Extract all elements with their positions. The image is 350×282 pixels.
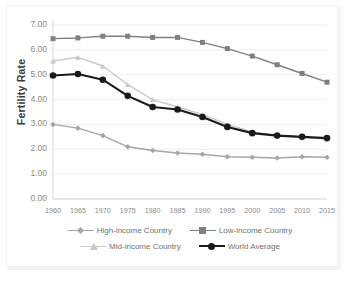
data-point-marker (174, 106, 181, 113)
data-point-marker (50, 72, 57, 79)
data-point-marker (150, 35, 155, 40)
legend-swatch-high-income-country (68, 226, 94, 235)
data-point-marker (324, 135, 331, 142)
legend-marker (90, 243, 98, 250)
data-point-marker (75, 125, 81, 131)
data-point-marker (250, 54, 255, 59)
data-point-marker (275, 62, 280, 67)
legend-row-2: Mid-income Country World Average (30, 238, 330, 254)
series-line (53, 57, 327, 139)
data-point-marker (75, 71, 82, 78)
series-world-average (50, 71, 331, 142)
series-line (53, 124, 327, 158)
data-point-marker (124, 93, 131, 100)
data-point-marker (125, 144, 131, 150)
data-point-marker (149, 104, 156, 111)
data-point-marker (274, 155, 280, 161)
data-point-marker (224, 124, 231, 131)
data-point-marker (325, 80, 330, 85)
data-point-marker (75, 35, 80, 40)
series-high-income-country (50, 122, 330, 161)
data-point-marker (50, 122, 56, 128)
data-point-marker (175, 150, 181, 156)
legend-marker (77, 227, 84, 234)
data-point-marker (51, 36, 56, 41)
data-point-marker (100, 133, 106, 139)
data-point-marker (200, 40, 205, 45)
legend-swatch-low-income-country (190, 226, 216, 235)
data-point-marker (274, 132, 281, 139)
data-point-marker (199, 114, 206, 121)
legend-item-mid-income-country[interactable]: Mid-income Country (80, 242, 181, 251)
data-point-marker (200, 151, 206, 157)
data-point-marker (299, 134, 306, 141)
legend-swatch-world-average (199, 242, 225, 251)
legend-item-high-income-country[interactable]: High-income Country (68, 226, 172, 235)
data-point-marker (225, 154, 231, 160)
data-point-marker (299, 154, 305, 160)
legend-marker (208, 243, 215, 250)
series-line (53, 36, 327, 82)
data-point-marker (125, 34, 130, 39)
legend-row-1: High-income Country Low-income Country (30, 222, 330, 238)
legend-label-mid-income-country: Mid-income Country (109, 242, 181, 251)
fertility-rate-chart: Fertility Rate 0.001.002.003.004.005.006… (0, 0, 350, 282)
legend-item-world-average[interactable]: World Average (199, 242, 280, 251)
data-point-marker (249, 130, 256, 137)
data-point-marker (150, 148, 156, 154)
legend-marker (199, 227, 206, 234)
data-point-marker (175, 35, 180, 40)
data-point-marker (225, 46, 230, 51)
legend-item-low-income-country[interactable]: Low-income Country (190, 226, 292, 235)
series-line (53, 74, 327, 138)
data-point-marker (300, 71, 305, 76)
data-point-marker (100, 76, 107, 83)
data-point-marker (100, 34, 105, 39)
data-point-marker (249, 154, 255, 160)
chart-legend: High-income Country Low-income Country M… (30, 222, 330, 254)
legend-swatch-mid-income-country (80, 242, 106, 251)
legend-label-high-income-country: High-income Country (97, 226, 172, 235)
legend-label-low-income-country: Low-income Country (219, 226, 292, 235)
legend-label-world-average: World Average (228, 242, 280, 251)
data-point-marker (324, 154, 330, 160)
